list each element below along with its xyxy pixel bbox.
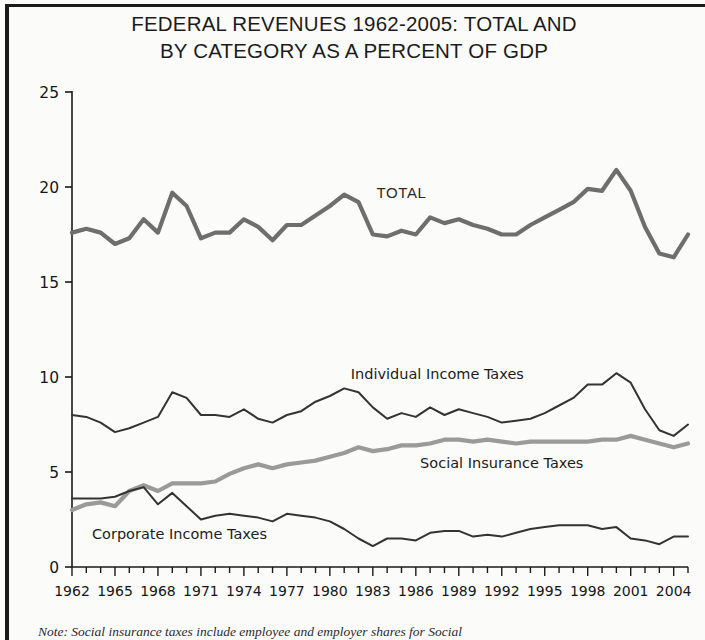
figure-note: Note: Social insurance taxes include emp… <box>38 624 698 640</box>
series-annotation-individual-income-taxes: Individual Income Taxes <box>351 366 524 382</box>
x-tick-label: 1962 <box>54 583 90 599</box>
x-tick-label: 1998 <box>570 583 606 599</box>
y-tick-label: 25 <box>39 84 59 102</box>
x-tick-label: 1995 <box>527 583 563 599</box>
series-annotation-corporate-income-taxes: Corporate Income Taxes <box>92 526 267 542</box>
x-tick-label: 1980 <box>312 583 348 599</box>
figure-note-text: Note: Social insurance taxes include emp… <box>38 624 462 639</box>
y-tick-label: 0 <box>49 559 59 577</box>
figure-page: FEDERAL REVENUES 1962-2005: TOTAL AND BY… <box>0 0 705 640</box>
series-line-total <box>72 170 688 257</box>
y-tick-label: 5 <box>49 464 59 482</box>
x-tick-label: 1983 <box>355 583 391 599</box>
x-tick-label: 1992 <box>484 583 520 599</box>
x-tick-label: 1986 <box>398 583 434 599</box>
x-tick-label: 1989 <box>441 583 477 599</box>
y-tick-label: 15 <box>39 274 59 292</box>
line-chart: 0510152025196219651968197119741977198019… <box>0 0 705 640</box>
series-line-individual-income-taxes <box>72 373 688 436</box>
series-annotation-social-insurance-taxes: Social Insurance Taxes <box>420 455 583 471</box>
x-tick-label: 1968 <box>140 583 176 599</box>
x-tick-label: 2001 <box>613 583 649 599</box>
y-tick-label: 20 <box>39 179 59 197</box>
chart-plot-area: 0510152025196219651968197119741977198019… <box>0 0 705 640</box>
y-tick-label: 10 <box>39 369 59 387</box>
x-tick-label: 1971 <box>183 583 219 599</box>
x-tick-label: 1965 <box>97 583 133 599</box>
series-annotation-total: TOTAL <box>377 184 427 201</box>
x-tick-label: 1977 <box>269 583 305 599</box>
x-tick-label: 2004 <box>656 583 692 599</box>
x-tick-label: 1974 <box>226 583 262 599</box>
